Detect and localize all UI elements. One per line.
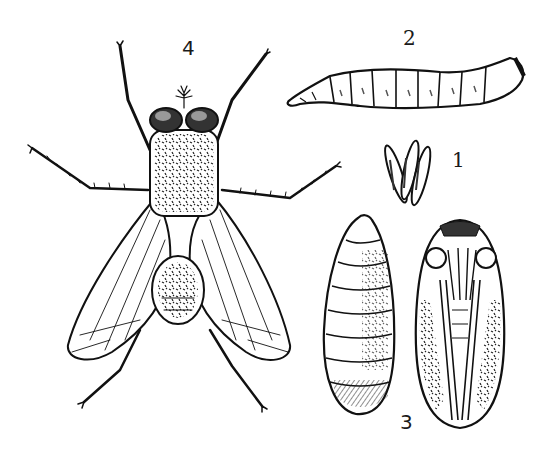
pupa-ventral-figure bbox=[416, 220, 504, 428]
illustration-plate: 4 2 1 3 bbox=[0, 0, 550, 452]
eggs-figure bbox=[381, 139, 434, 206]
pupa-dorsal-figure bbox=[324, 215, 394, 414]
figure-label-1: 1 bbox=[452, 150, 465, 170]
figure-label-2: 2 bbox=[403, 28, 416, 48]
fly-lifecycle-drawing bbox=[0, 0, 550, 452]
larva-figure bbox=[288, 58, 524, 108]
figure-label-4: 4 bbox=[182, 38, 195, 58]
figure-label-3: 3 bbox=[400, 412, 413, 432]
